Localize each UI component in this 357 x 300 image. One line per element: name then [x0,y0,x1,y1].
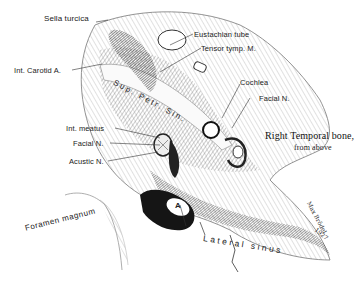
label-acustic-n: Acustic N. [69,157,104,166]
label-sella-turcica: Sella turcica [44,14,89,23]
figure-title: Right Temporal bone, [265,130,354,141]
foramen-magnum-edge [65,193,122,270]
label-tensor-tymp: Tensor tymp. M. [201,44,256,53]
label-facial-n-left: Facial N. [73,139,104,148]
eustachian-opening [158,30,186,50]
label-int-carotid: Int. Carotid A. [14,66,61,75]
cochlea-shape [203,122,219,138]
label-cochlea: Cochlea [240,78,268,87]
figure-subtitle: from above [294,143,332,152]
label-letter-a: A [175,201,181,210]
label-eustachian-tube: Eustachian tube [194,30,249,39]
label-facial-n-right: Facial N. [259,94,290,103]
label-int-meatus: Int. meatus [66,124,104,133]
